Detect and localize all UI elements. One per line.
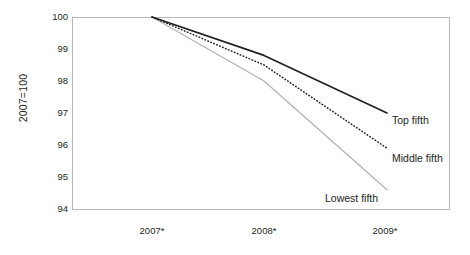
plot-area [0,0,470,255]
line-lowest-fifth [152,17,387,190]
chart-container: 2007=100 100 99 98 97 96 95 94 2007* 200… [0,0,470,255]
series-label-lowest-fifth: Lowest fifth [325,192,378,204]
series-label-top-fifth: Top fifth [392,114,429,126]
series-label-middle-fifth: Middle fifth [392,152,443,164]
